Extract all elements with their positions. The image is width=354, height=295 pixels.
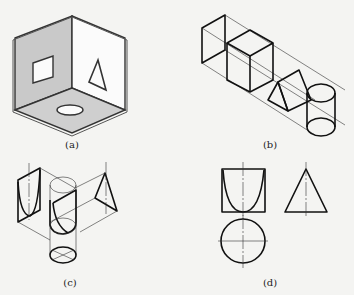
projection-line [80, 211, 117, 232]
cyl-mid [50, 218, 76, 234]
caption-b: (b) [263, 139, 277, 150]
panel-c: (c) [18, 162, 117, 288]
cyl-top [50, 177, 76, 193]
ellipse-hole [57, 105, 83, 115]
caption-c: (c) [63, 277, 77, 288]
caption-a: (a) [65, 139, 79, 150]
cylinder-bottom [307, 118, 335, 136]
front-view-parabola [223, 170, 264, 212]
front-view-square [222, 169, 265, 212]
panel-d: (d) [218, 162, 327, 288]
projection-figure: (a) (b) [0, 0, 354, 295]
projection-line [202, 63, 315, 135]
back-square [202, 15, 225, 63]
cube-edges [227, 43, 273, 56]
panel-b: (b) [202, 15, 345, 150]
panel-a: (a) [13, 16, 127, 150]
caption-d: (d) [263, 277, 277, 288]
projection-line [18, 222, 50, 240]
projection-line [202, 28, 315, 100]
cylinder-top [307, 84, 335, 102]
prism-body [278, 70, 311, 111]
